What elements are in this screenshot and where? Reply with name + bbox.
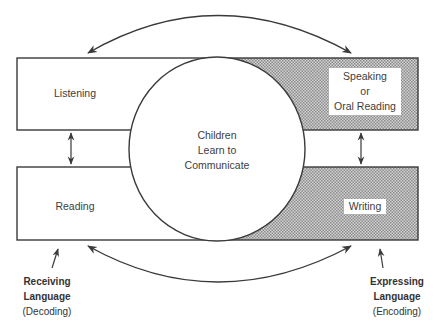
- center-label: Children Learn to Communicate: [162, 128, 272, 173]
- receiving-caption-line-2: Language: [14, 289, 80, 304]
- receiving-pointer-arrow: [52, 249, 58, 268]
- expressing-pointer-arrow: [380, 249, 383, 268]
- speaking-label: Speaking or Oral Reading: [329, 68, 401, 115]
- center-label-line-1: Children: [162, 128, 272, 143]
- expressing-caption-line-2: Language: [360, 289, 434, 304]
- expressing-language-caption: Expressing Language (Encoding): [360, 274, 434, 319]
- expressing-caption-line-1: Expressing: [360, 274, 434, 289]
- top-curved-arrow: [88, 16, 351, 54]
- listening-label: Listening: [40, 86, 110, 101]
- center-label-line-2: Learn to: [162, 143, 272, 158]
- receiving-caption-line-1: Receiving: [14, 274, 80, 289]
- bottom-curved-arrow: [88, 246, 351, 282]
- reading-label: Reading: [40, 199, 110, 214]
- speaking-label-line-1: Speaking: [329, 69, 401, 84]
- speaking-label-line-2: or: [329, 84, 401, 99]
- receiving-caption-line-3: (Decoding): [14, 304, 80, 319]
- speaking-label-line-3: Oral Reading: [329, 99, 401, 114]
- writing-label: Writing: [344, 199, 386, 214]
- receiving-language-caption: Receiving Language (Decoding): [14, 274, 80, 319]
- expressing-caption-line-3: (Encoding): [360, 304, 434, 319]
- center-label-line-3: Communicate: [162, 158, 272, 173]
